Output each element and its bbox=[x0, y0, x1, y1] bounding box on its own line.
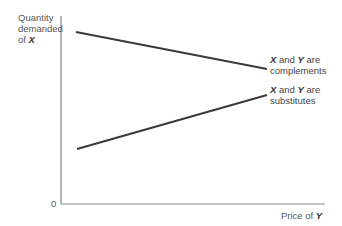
annot-are: are bbox=[304, 54, 320, 65]
y-label-line-3: of bbox=[18, 34, 26, 45]
y-axis-label: Quantity demanded of X bbox=[18, 12, 63, 45]
y-label-line-1: Quantity bbox=[18, 12, 63, 23]
x-axis-label: Price of Y bbox=[281, 210, 322, 221]
substitutes-annotation: X and Y are substitutes bbox=[270, 85, 320, 106]
y-label-line-2: demanded bbox=[18, 23, 63, 34]
y-label-variable: X bbox=[29, 34, 35, 45]
annot-and: and bbox=[276, 84, 297, 95]
x-label-variable: Y bbox=[316, 210, 322, 221]
annot-and: and bbox=[276, 54, 297, 65]
substitutes-line bbox=[77, 95, 267, 149]
complements-line bbox=[76, 32, 267, 69]
annot-complements-text: complements bbox=[270, 66, 327, 77]
annot-are: are bbox=[304, 84, 320, 95]
x-label-prefix: Price of bbox=[281, 210, 313, 221]
origin-label: 0 bbox=[51, 198, 56, 209]
complements-annotation: X and Y are complements bbox=[270, 55, 327, 76]
annot-substitutes-text: substitutes bbox=[270, 96, 320, 107]
